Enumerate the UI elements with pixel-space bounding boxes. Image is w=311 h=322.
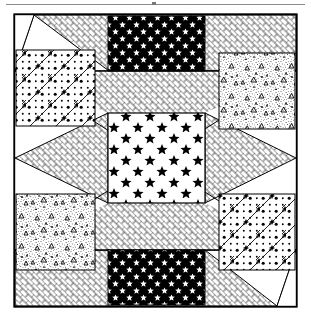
patch-top-right-corner [219, 53, 295, 129]
quilt-block-svg [0, 0, 311, 322]
quilt-block-figure [0, 0, 311, 322]
patch-bottom-right-corner [219, 194, 295, 270]
patch-top-center-bar [108, 16, 205, 71]
patch-bottom-left-corner [16, 194, 95, 270]
figure-page [0, 0, 311, 322]
patch-top-left-corner [16, 50, 95, 126]
patch-bottom-center-bar [108, 250, 205, 305]
patch-center-star-square [108, 113, 205, 203]
